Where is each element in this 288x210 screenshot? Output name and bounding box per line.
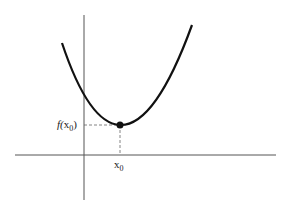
diagram-canvas	[0, 0, 288, 210]
minimum-point	[117, 122, 124, 129]
function-curve-smooth	[62, 25, 192, 125]
fx0-label: f(x0)	[57, 118, 77, 133]
x0-label: x0	[114, 158, 124, 173]
